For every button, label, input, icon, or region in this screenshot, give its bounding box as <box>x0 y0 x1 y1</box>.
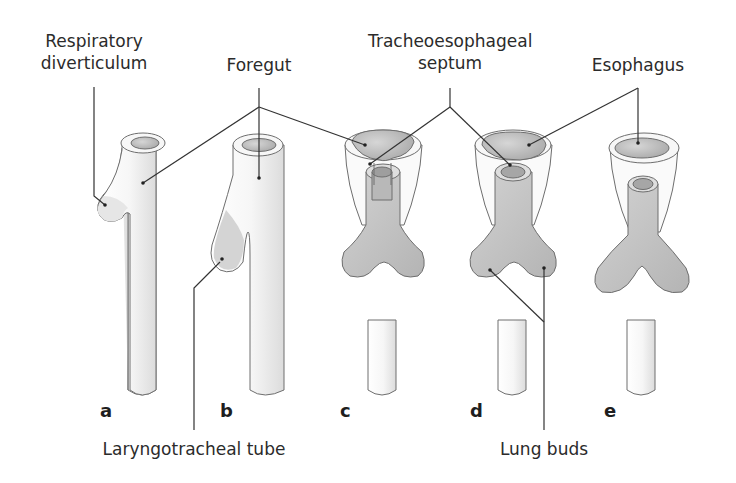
leader-laryngotracheal-tube <box>194 262 220 430</box>
diagram: Respiratory diverticulum Foregut Tracheo… <box>0 0 736 483</box>
leader-lung-buds-left <box>490 270 544 322</box>
stage-b-foregut <box>211 134 284 395</box>
label-septum-line2: septum <box>368 52 532 74</box>
label-respiratory-diverticulum-line2: diverticulum <box>38 52 150 74</box>
stage-label-d: d <box>470 400 483 421</box>
stage-label-b: b <box>220 400 233 421</box>
stage-a-foregut <box>98 133 165 395</box>
label-esophagus: Esophagus <box>590 54 686 76</box>
label-respiratory-diverticulum: Respiratory diverticulum <box>38 30 150 74</box>
stage-d-foregut <box>470 130 556 395</box>
stage-c-foregut <box>342 130 424 395</box>
stage-label-e: e <box>604 400 616 421</box>
label-septum-line1: Tracheoesophageal <box>368 30 532 52</box>
label-laryngotracheal-tube: Laryngotracheal tube <box>98 438 290 460</box>
label-foregut: Foregut <box>220 54 298 76</box>
stage-label-a: a <box>100 400 112 421</box>
label-tracheoesophageal-septum: Tracheoesophageal septum <box>368 30 532 74</box>
label-respiratory-diverticulum-line1: Respiratory <box>38 30 150 52</box>
leader-respiratory-diverticulum <box>94 87 105 205</box>
stage-label-c: c <box>340 400 351 421</box>
label-lung-buds: Lung buds <box>494 438 594 460</box>
stage-e-foregut <box>595 133 689 395</box>
